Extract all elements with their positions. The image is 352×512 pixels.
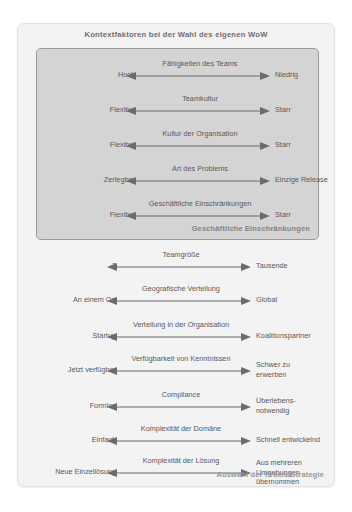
factor-row-teamkultur: Flexibel Teamkultur Starr: [37, 92, 352, 124]
factor-right-label: Starr: [275, 105, 352, 115]
factor-left-label: Formlos: [0, 401, 116, 411]
factor-name: Teamkultur: [125, 94, 275, 104]
factor-row-teamgroesse: 2 Teamgröße Tausende: [18, 248, 336, 280]
double-arrow-icon: [125, 140, 271, 152]
factor-row-komplexitaet-der-domaene: Einfach Komplexität der Domäne Schnell e…: [18, 422, 336, 454]
factor-right-label: Schwer zu erwerben: [256, 360, 336, 379]
factor-name: Komplexität der Domäne: [106, 424, 256, 434]
factor-right-label: Global: [256, 295, 336, 305]
context-factors-panel: Kontextfaktoren bei der Wahl des eigenen…: [17, 23, 335, 487]
double-arrow-icon: [125, 105, 271, 117]
factor-name: Geografische Verteilung: [106, 284, 256, 294]
double-arrow-icon: [125, 70, 271, 82]
double-arrow-icon: [106, 261, 252, 273]
page-title: Kontextfaktoren bei der Wahl des eigenen…: [18, 30, 334, 39]
factor-left-label: Einfach: [0, 435, 116, 445]
factor-left-label: Hoch: [5, 70, 135, 80]
double-arrow-icon: [106, 365, 252, 377]
factor-name: Art des Problems: [125, 164, 275, 174]
factor-right-label: Einzige Release: [275, 175, 352, 185]
factor-left-label: Neue Einzellösung: [0, 467, 116, 477]
factor-left-label: Startup: [0, 331, 116, 341]
factor-row-geografische-verteilung: An einem Ort Geografische Verteilung Glo…: [18, 282, 336, 314]
factor-name: Teamgröße: [106, 250, 256, 260]
factor-row-kultur-der-organisation: Flexibel Kultur der Organisation Starr: [37, 127, 352, 159]
factor-row-verteilung-in-der-organisation: Startup Verteilung in der Organisation K…: [18, 318, 336, 350]
factor-left-label: An einem Ort: [0, 295, 116, 305]
factor-name: Komplexität der Lösung: [106, 456, 256, 466]
factor-name: Compliance: [106, 390, 256, 400]
double-arrow-icon: [125, 210, 271, 222]
outer-group-caption: Auswahl der Praxis/Strategie: [217, 470, 324, 479]
factor-row-compliance: Formlos Compliance Überlebens- notwendig: [18, 388, 336, 420]
factor-right-label: Überlebens- notwendig: [256, 396, 336, 415]
factor-name: Verfügbarkeit von Kenntnissen: [106, 354, 256, 364]
double-arrow-icon: [106, 331, 252, 343]
double-arrow-icon: [106, 435, 252, 447]
factor-name: Fähigkeiten des Teams: [125, 59, 275, 69]
factor-row-art-des-problems: Zerlegbar Art des Problems Einzige Relea…: [37, 162, 352, 194]
factor-right-label: Niedrig: [275, 70, 352, 80]
double-arrow-icon: [106, 295, 252, 307]
factor-right-label: Koalitionspartner: [256, 331, 336, 341]
inner-group-caption: Geschäftliche Einschränkungen: [192, 224, 310, 233]
factor-name: Kultur der Organisation: [125, 129, 275, 139]
factor-left-label: Zerlegbar: [5, 175, 135, 185]
factor-left-label: Jetzt verfügbar: [0, 365, 116, 375]
factor-name: Verteilung in der Organisation: [106, 320, 256, 330]
factor-left-label: 2: [0, 261, 116, 271]
factor-left-label: Flexibel: [5, 210, 135, 220]
factor-left-label: Flexibel: [5, 140, 135, 150]
diagram-canvas: Kontextfaktoren bei der Wahl des eigenen…: [0, 0, 352, 512]
factor-row-faehigkeiten-des-teams: Hoch Fähigkeiten des Teams Niedrig: [37, 57, 352, 89]
factor-right-label: Starr: [275, 210, 352, 220]
double-arrow-icon: [106, 401, 252, 413]
double-arrow-icon: [125, 175, 271, 187]
business-constraints-group: Hoch Fähigkeiten des Teams Niedrig Flexi…: [36, 48, 319, 240]
factor-left-label: Flexibel: [5, 105, 135, 115]
factor-right-label: Schnell entwickelnd: [256, 435, 336, 445]
factor-name: Geschäftliche Einschränkungen: [125, 199, 275, 209]
factor-right-label: Tausende: [256, 261, 336, 271]
factor-row-verfuegbarkeit-von-kenntnissen: Jetzt verfügbar Verfügbarkeit von Kenntn…: [18, 352, 336, 384]
factor-right-label: Starr: [275, 140, 352, 150]
